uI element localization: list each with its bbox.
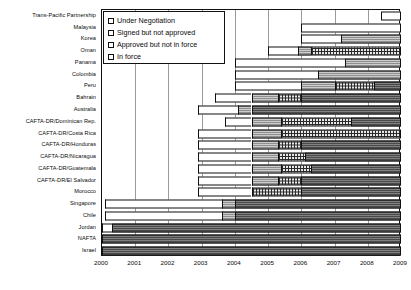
bar-segment-negotiation bbox=[198, 164, 251, 173]
x-axis-tick-2005: 2005 bbox=[260, 259, 274, 267]
bar-segment-negotiation bbox=[235, 70, 318, 79]
bar-segment-inforce bbox=[235, 211, 401, 220]
bar-segment-signed bbox=[252, 94, 279, 103]
bar-row bbox=[102, 164, 399, 173]
bar-segment-inforce bbox=[235, 200, 401, 209]
bar-segment-signed bbox=[252, 117, 282, 126]
bar-segment-inforce bbox=[374, 82, 401, 91]
y-axis-label: Jordan bbox=[0, 224, 96, 230]
bar-segment-negotiation bbox=[301, 35, 341, 44]
bar-segment-approved bbox=[278, 94, 301, 103]
legend-label: In force bbox=[117, 53, 141, 61]
legend-swatch-inforce bbox=[108, 54, 114, 60]
bar-segment-negotiation bbox=[235, 82, 301, 91]
bar-segment-negotiation bbox=[198, 105, 238, 114]
bar-row bbox=[102, 235, 399, 244]
bar-segment-negotiation bbox=[105, 211, 221, 220]
x-axis-tick-2004: 2004 bbox=[227, 259, 241, 267]
x-axis-tick-2001: 2001 bbox=[127, 259, 141, 267]
y-axis-label: Trans-Pacific Partnership bbox=[0, 12, 96, 18]
chart-legend: Under NegotiationSigned but not approved… bbox=[103, 11, 225, 64]
legend-label: Under Negotiation bbox=[117, 17, 175, 25]
y-axis-label: Colombia bbox=[0, 71, 96, 77]
y-axis-label: Bahrain bbox=[0, 94, 96, 100]
y-axis-label: CAFTA-DR/El Salvador bbox=[0, 177, 96, 183]
bar-row bbox=[102, 247, 399, 256]
y-axis-label: NAFTA bbox=[0, 235, 96, 241]
bar-row bbox=[102, 141, 399, 150]
bar-segment-signed bbox=[298, 47, 311, 56]
x-axis-tick-2000: 2000 bbox=[94, 259, 108, 267]
y-axis-label: Singapore bbox=[0, 200, 96, 206]
y-axis-label: Malaysia bbox=[0, 24, 96, 30]
bar-segment-signed bbox=[252, 129, 282, 138]
legend-swatch-approved bbox=[108, 42, 114, 48]
x-axis-tick-labels: 2000200120022003200420052006200720082009 bbox=[0, 259, 411, 273]
bar-segment-signed bbox=[318, 70, 401, 79]
x-axis-tick-2003: 2003 bbox=[194, 259, 208, 267]
bar-segment-negotiation bbox=[102, 223, 112, 232]
legend-swatch-negotiation bbox=[108, 18, 114, 24]
bar-segment-approved bbox=[335, 82, 375, 91]
bar-segment-negotiation bbox=[105, 200, 221, 209]
bar-segment-inforce bbox=[102, 235, 401, 244]
bar-row bbox=[102, 223, 399, 232]
y-axis-label: Korea bbox=[0, 35, 96, 41]
bar-segment-inforce bbox=[112, 223, 401, 232]
bar-row bbox=[102, 129, 399, 138]
bar-segment-negotiation bbox=[215, 94, 252, 103]
bar-segment-signed bbox=[238, 105, 251, 114]
trade-agreements-timeline-chart: Trans-Pacific PartnershipMalaysiaKoreaOm… bbox=[0, 0, 411, 290]
bar-segment-signed bbox=[341, 35, 401, 44]
bar-segment-approved bbox=[281, 117, 351, 126]
y-axis-label: CAFTA-DR/Guatemala bbox=[0, 165, 96, 171]
y-axis-label: Panama bbox=[0, 59, 96, 65]
bar-segment-signed bbox=[222, 200, 235, 209]
bar-segment-inforce bbox=[301, 188, 401, 197]
bar-segment-inforce bbox=[301, 176, 401, 185]
bar-segment-approved bbox=[278, 153, 305, 162]
bar-segment-signed bbox=[252, 176, 279, 185]
bar-segment-negotiation bbox=[225, 117, 252, 126]
bar-row bbox=[102, 105, 399, 114]
bar-segment-inforce bbox=[351, 117, 401, 126]
bar-segment-inforce bbox=[301, 141, 401, 150]
y-axis-label: Oman bbox=[0, 47, 96, 53]
bar-row bbox=[102, 153, 399, 162]
y-axis-label: Israel bbox=[0, 247, 96, 253]
y-axis-label: CAFTA-DR/Dominican Rep. bbox=[0, 118, 96, 124]
y-axis-label: CAFTA-DR/Costa Rica bbox=[0, 130, 96, 136]
y-axis-label: Australia bbox=[0, 106, 96, 112]
bar-segment-signed bbox=[252, 141, 279, 150]
bar-row bbox=[102, 94, 399, 103]
bar-segment-signed bbox=[301, 82, 334, 91]
bar-row bbox=[102, 200, 399, 209]
legend-item-signed: Signed but not approved bbox=[108, 27, 221, 39]
bar-segment-signed bbox=[252, 153, 279, 162]
y-axis-label: Chile bbox=[0, 212, 96, 218]
bar-segment-negotiation bbox=[301, 23, 401, 32]
bar-segment-negotiation bbox=[268, 47, 298, 56]
bar-segment-signed bbox=[222, 211, 235, 220]
bar-segment-negotiation bbox=[198, 141, 251, 150]
bar-segment-approved bbox=[278, 176, 301, 185]
x-axis-tick-2006: 2006 bbox=[293, 259, 307, 267]
bar-segment-negotiation bbox=[235, 58, 345, 67]
y-axis-label: CAFTA-DR/Nicaragua bbox=[0, 153, 96, 159]
bar-segment-approved bbox=[278, 141, 301, 150]
bar-segment-inforce bbox=[102, 247, 401, 256]
x-axis-tick-2008: 2008 bbox=[360, 259, 374, 267]
legend-item-inforce: In force bbox=[108, 51, 221, 63]
bar-segment-inforce bbox=[301, 94, 401, 103]
bar-row bbox=[102, 70, 399, 79]
bar-segment-approved bbox=[311, 47, 401, 56]
legend-item-approved: Approved but not in force bbox=[108, 39, 221, 51]
y-axis-category-labels: Trans-Pacific PartnershipMalaysiaKoreaOm… bbox=[0, 9, 99, 256]
bar-segment-negotiation bbox=[381, 11, 401, 20]
bar-segment-negotiation bbox=[198, 176, 251, 185]
bar-row bbox=[102, 188, 399, 197]
legend-swatch-signed bbox=[108, 30, 114, 36]
y-axis-label: CAFTA-DR/Honduras bbox=[0, 141, 96, 147]
bar-segment-negotiation bbox=[198, 188, 251, 197]
legend-label: Approved but not in force bbox=[117, 41, 197, 49]
